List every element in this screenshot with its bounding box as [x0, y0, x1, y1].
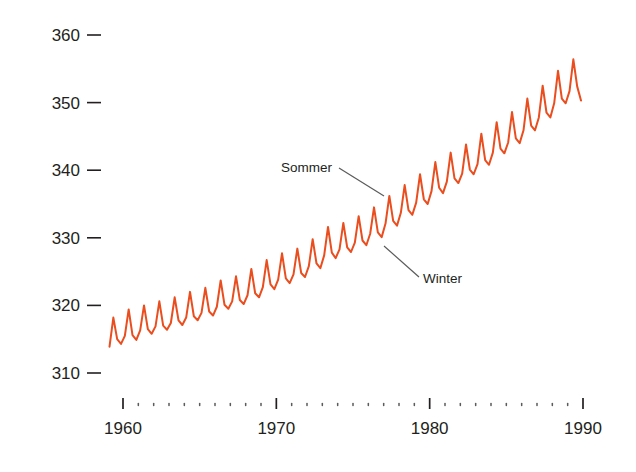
- annotation-label-winter: Winter: [423, 271, 463, 286]
- annotation-leader-line-sommer: [339, 168, 384, 196]
- chart-figure: 310320330340350360 1960197019801990 Somm…: [0, 0, 636, 472]
- x-tick-label: 1990: [564, 419, 602, 438]
- x-axis-minor-tick-group: [138, 404, 567, 406]
- keeling-curve-svg: 310320330340350360 1960197019801990 Somm…: [0, 0, 636, 472]
- y-tick-label: 350: [52, 94, 80, 113]
- y-axis-tick-group: 310320330340350360: [52, 26, 101, 383]
- annotation-leader-line-winter: [384, 246, 419, 277]
- x-tick-label: 1980: [411, 419, 449, 438]
- y-tick-label: 340: [52, 161, 80, 180]
- x-tick-label: 1960: [104, 419, 142, 438]
- y-tick-label: 320: [52, 296, 80, 315]
- x-tick-label: 1970: [257, 419, 295, 438]
- y-tick-label: 310: [52, 364, 80, 383]
- y-tick-label: 330: [52, 229, 80, 248]
- y-tick-label: 360: [52, 26, 80, 45]
- co2-data-line: [110, 59, 582, 346]
- annotation-label-sommer: Sommer: [281, 160, 333, 175]
